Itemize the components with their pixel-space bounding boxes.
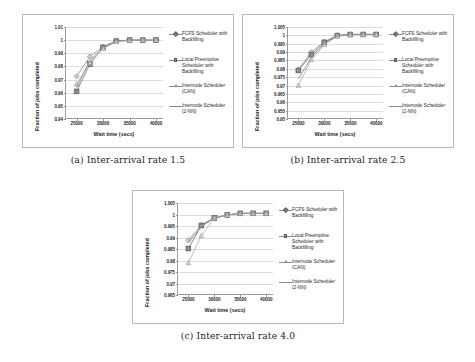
y-tick-label: 0.975 bbox=[164, 270, 175, 275]
x-tick-label: 25000 bbox=[70, 121, 82, 126]
panel-b-box: Fraction of jobs completed 0.950.9550.96… bbox=[242, 14, 454, 148]
y-tick-mark bbox=[64, 119, 66, 120]
y-tick-label: 0.94 bbox=[54, 117, 63, 122]
y-axis-title-b: Fraction of jobs completed bbox=[254, 62, 260, 131]
panel-c-box: Fraction of jobs completed 0.9650.970.97… bbox=[132, 190, 344, 324]
plot-area-a: 0.940.950.960.970.980.9911.0125000300003… bbox=[65, 27, 163, 119]
legend-entry[interactable]: FCFS Scheduler with Backfilling bbox=[279, 207, 343, 219]
y-tick-label: 0.98 bbox=[166, 258, 175, 263]
panel-c: Fraction of jobs completed 0.9650.970.97… bbox=[132, 190, 344, 324]
plot-area-c: 0.9650.970.9750.980.9850.990.99511.00525… bbox=[177, 203, 273, 295]
chart-a: Fraction of jobs completed 0.940.950.960… bbox=[23, 15, 233, 147]
y-tick-label: 0.99 bbox=[276, 50, 285, 55]
x-tick-label: 30000 bbox=[208, 297, 220, 302]
data-point-marker bbox=[186, 260, 191, 264]
plot-area-b: 0.950.9550.960.9650.970.9750.980.9850.99… bbox=[287, 27, 383, 119]
data-point-marker bbox=[74, 74, 79, 79]
legend-entry[interactable]: Internode Scheduler (2-NN) bbox=[279, 279, 343, 291]
legend-label: Local Preemptive Scheduler with Backfill… bbox=[402, 57, 439, 76]
y-tick-label: 0.98 bbox=[54, 64, 63, 69]
y-tick-label: 1 bbox=[283, 33, 285, 38]
legend-entry[interactable]: FCFS Scheduler with Backfilling bbox=[169, 31, 233, 43]
x-tick-label: 35000 bbox=[123, 121, 135, 126]
legend-label: Internode Scheduler (2-NN) bbox=[292, 279, 335, 291]
y-tick-label: 1.005 bbox=[274, 25, 285, 30]
legend-marker-icon bbox=[389, 58, 402, 64]
x-tick-label: 30000 bbox=[318, 121, 330, 126]
series-line bbox=[188, 213, 266, 262]
caption-a: (a) Inter-arrival rate 1.5 bbox=[22, 154, 234, 165]
legend-entry[interactable]: Internode Scheduler (2-NN) bbox=[169, 103, 233, 115]
legend-entry[interactable]: Internode Scheduler (CAN) bbox=[389, 83, 453, 95]
y-tick-label: 0.99 bbox=[54, 51, 63, 56]
legend-entry[interactable]: Internode Scheduler (CAN) bbox=[169, 83, 233, 95]
legend-marker-icon bbox=[389, 32, 402, 38]
legend-marker-icon bbox=[279, 234, 292, 240]
legend-label: Internode Scheduler (2-NN) bbox=[402, 103, 445, 115]
y-tick-label: 0.955 bbox=[274, 108, 285, 113]
legend-entry[interactable]: Internode Scheduler (CAN) bbox=[279, 259, 343, 271]
y-tick-label: 1 bbox=[61, 38, 63, 43]
legend-a: FCFS Scheduler with BackfillingLocal Pre… bbox=[169, 31, 233, 123]
y-tick-label: 0.985 bbox=[274, 58, 285, 63]
y-tick-mark bbox=[176, 295, 178, 296]
y-tick-mark bbox=[286, 119, 288, 120]
legend-b: FCFS Scheduler with BackfillingLocal Pre… bbox=[389, 31, 453, 123]
legend-label: Internode Scheduler (CAN) bbox=[292, 259, 335, 271]
y-tick-label: 0.985 bbox=[164, 247, 175, 252]
chart-c: Fraction of jobs completed 0.9650.970.97… bbox=[133, 191, 343, 323]
y-tick-label: 0.97 bbox=[54, 77, 63, 82]
panel-b: Fraction of jobs completed 0.950.9550.96… bbox=[242, 14, 454, 148]
caption-c: (c) Inter-arrival rate 4.0 bbox=[132, 330, 344, 341]
legend-label: Local Preemptive Scheduler with Backfill… bbox=[182, 57, 219, 76]
x-tick-label: 40000 bbox=[260, 297, 272, 302]
y-tick-label: 0.99 bbox=[166, 235, 175, 240]
panel-a-box: Fraction of jobs completed 0.940.950.960… bbox=[22, 14, 234, 148]
data-point-marker bbox=[186, 246, 191, 251]
y-tick-label: 1.005 bbox=[164, 201, 175, 206]
series-line bbox=[188, 213, 266, 248]
legend-label: Internode Scheduler (CAN) bbox=[402, 83, 445, 95]
legend-marker-icon bbox=[169, 84, 182, 90]
y-tick-label: 0.95 bbox=[54, 103, 63, 108]
series-line bbox=[77, 40, 156, 88]
y-tick-label: 0.98 bbox=[276, 66, 285, 71]
legend-marker-icon bbox=[279, 260, 292, 266]
legend-entry[interactable]: Internode Scheduler (2-NN) bbox=[389, 103, 453, 115]
chart-b: Fraction of jobs completed 0.950.9550.96… bbox=[243, 15, 453, 147]
legend-marker-icon bbox=[169, 104, 182, 110]
y-tick-label: 1.01 bbox=[54, 25, 63, 30]
x-tick-label: 40000 bbox=[150, 121, 162, 126]
y-axis-title-c: Fraction of jobs completed bbox=[144, 238, 150, 307]
data-point-marker bbox=[296, 83, 301, 87]
y-tick-label: 0.96 bbox=[54, 90, 63, 95]
y-tick-label: 0.96 bbox=[276, 100, 285, 105]
legend-marker-icon bbox=[169, 32, 182, 38]
y-tick-label: 0.965 bbox=[164, 293, 175, 298]
legend-entry[interactable]: Local Preemptive Scheduler with Backfill… bbox=[169, 57, 233, 76]
x-axis-title-a: Wait time (secs) bbox=[65, 131, 163, 137]
series-layer bbox=[178, 203, 274, 295]
legend-entry[interactable]: Local Preemptive Scheduler with Backfill… bbox=[389, 57, 453, 76]
legend-marker-icon bbox=[389, 104, 402, 110]
x-tick-label: 35000 bbox=[234, 297, 246, 302]
x-axis-title-b: Wait time (secs) bbox=[287, 131, 383, 137]
legend-marker-icon bbox=[279, 208, 292, 214]
legend-entry[interactable]: Local Preemptive Scheduler with Backfill… bbox=[279, 233, 343, 252]
y-tick-label: 0.975 bbox=[274, 75, 285, 80]
y-axis-title-a: Fraction of jobs completed bbox=[34, 62, 40, 131]
series-layer bbox=[66, 27, 164, 119]
panel-a: Fraction of jobs completed 0.940.950.960… bbox=[22, 14, 234, 148]
y-tick-label: 0.995 bbox=[164, 224, 175, 229]
legend-label: Internode Scheduler (2-NN) bbox=[182, 103, 225, 115]
data-point-marker bbox=[296, 68, 301, 73]
y-tick-label: 0.97 bbox=[166, 281, 175, 286]
x-tick-label: 35000 bbox=[344, 121, 356, 126]
y-tick-label: 0.995 bbox=[274, 41, 285, 46]
legend-marker-icon bbox=[389, 84, 402, 90]
legend-marker-icon bbox=[169, 58, 182, 64]
series-layer bbox=[288, 27, 384, 119]
y-tick-label: 1 bbox=[173, 212, 175, 217]
legend-entry[interactable]: FCFS Scheduler with Backfilling bbox=[389, 31, 453, 43]
data-point-marker bbox=[74, 89, 79, 94]
